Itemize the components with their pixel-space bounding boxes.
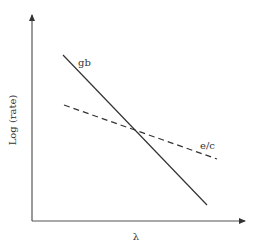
series-ec-line xyxy=(64,105,217,159)
gb-label: gb xyxy=(78,57,91,68)
chart-canvas: gb e/c λ Log (rate) xyxy=(0,0,261,250)
y-axis-label: Log (rate) xyxy=(7,95,18,146)
x-axis-label: λ xyxy=(133,231,140,242)
ec-label: e/c xyxy=(200,140,215,151)
